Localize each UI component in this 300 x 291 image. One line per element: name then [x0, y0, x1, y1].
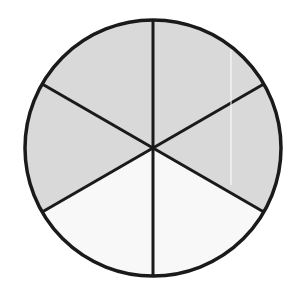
fraction-circle-diagram [0, 0, 300, 291]
